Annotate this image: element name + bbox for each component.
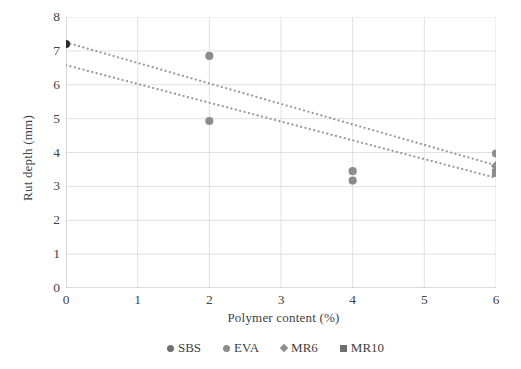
y-tick-label: 7 (30, 43, 60, 59)
data-point-eva (205, 52, 213, 60)
x-tick-label: 5 (409, 292, 439, 308)
legend-item-mr10[interactable]: MR10 (340, 340, 384, 356)
x-tick-label: 1 (123, 292, 153, 308)
y-tick-label: 6 (30, 77, 60, 93)
data-point-eva (492, 149, 496, 157)
x-tick-label: 4 (338, 292, 368, 308)
data-point-eva (349, 167, 357, 175)
legend-label: SBS (178, 340, 201, 356)
chart-legend: SBSEVAMR6MR10 (0, 340, 521, 356)
legend-label: EVA (234, 340, 259, 356)
legend-label: MR10 (351, 340, 384, 356)
data-point-eva (349, 177, 357, 185)
legend-marker-circle-icon (223, 345, 230, 352)
legend-item-sbs[interactable]: SBS (167, 340, 201, 356)
y-tick-label: 5 (30, 111, 60, 127)
y-tick-label: 1 (30, 246, 60, 262)
y-axis-tick-labels: 012345678 (30, 17, 60, 288)
legend-marker-square-icon (340, 345, 347, 352)
y-tick-label: 4 (30, 145, 60, 161)
x-tick-label: 0 (51, 292, 81, 308)
scatter-chart: Rut depth (mm) 012345678 0123456 Polymer… (0, 0, 521, 369)
plot-area (66, 17, 496, 288)
legend-item-mr6[interactable]: MR6 (281, 340, 318, 356)
x-tick-label: 2 (194, 292, 224, 308)
y-tick-label: 3 (30, 178, 60, 194)
plot-canvas (66, 17, 496, 288)
x-axis-tick-labels: 0123456 (66, 292, 496, 312)
legend-label: MR6 (291, 340, 318, 356)
data-point-sbs (66, 40, 70, 48)
data-point-mr10 (492, 169, 496, 177)
x-tick-label: 3 (266, 292, 296, 308)
y-tick-label: 8 (30, 9, 60, 25)
x-tick-label: 6 (481, 292, 511, 308)
legend-marker-circle-icon (167, 345, 174, 352)
y-tick-label: 2 (30, 212, 60, 228)
x-axis-title: Polymer content (%) (0, 310, 521, 326)
data-point-eva (205, 117, 213, 125)
legend-item-eva[interactable]: EVA (223, 340, 259, 356)
legend-marker-diamond-icon (280, 344, 288, 352)
